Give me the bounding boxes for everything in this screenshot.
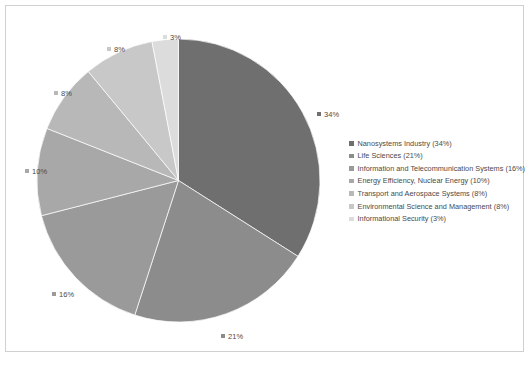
legend-item[interactable]: Information and Telecommunication System…: [349, 162, 524, 175]
data-label-marker-icon: [54, 91, 58, 95]
data-label-marker-icon: [107, 47, 111, 51]
data-label-marker-icon: [221, 334, 225, 338]
legend-item-label: Energy Efficiency, Nuclear Energy (10%): [358, 177, 490, 184]
pie-data-label: 3%: [163, 32, 181, 42]
legend-item-label: Nanosystems Industry (34%): [358, 140, 452, 147]
legend-swatch-icon: [349, 141, 354, 146]
legend-item-label: Transport and Aerospace Systems (8%): [358, 190, 488, 197]
legend-swatch-icon: [349, 217, 354, 222]
legend-item[interactable]: Informational Security (3%): [349, 213, 524, 226]
data-label-text: 8%: [61, 89, 72, 98]
legend-item[interactable]: Life Sciences (21%): [349, 150, 524, 163]
data-label-text: 10%: [32, 167, 47, 176]
legend-item-label: Informational Security (3%): [358, 215, 447, 222]
legend-item[interactable]: Nanosystems Industry (34%): [349, 137, 524, 150]
pie-chart: [36, 38, 321, 323]
legend-item[interactable]: Environmental Science and Management (8%…: [349, 200, 524, 213]
data-label-marker-icon: [163, 35, 167, 39]
data-label-marker-icon: [317, 112, 321, 116]
pie-data-label: 21%: [221, 331, 243, 341]
legend-item-label: Information and Telecommunication System…: [358, 165, 526, 172]
pie-data-label: 8%: [107, 44, 125, 54]
pie-data-label: 34%: [317, 109, 339, 119]
chart-legend: Nanosystems Industry (34%)Life Sciences …: [349, 137, 524, 225]
chart-frame: 34%21%16%10%8%8%3% Nanosystems Industry …: [5, 5, 524, 352]
legend-swatch-icon: [349, 166, 354, 171]
pie-data-label: 10%: [25, 166, 47, 176]
legend-swatch-icon: [349, 191, 354, 196]
pie-data-label: 8%: [54, 88, 72, 98]
legend-item[interactable]: Transport and Aerospace Systems (8%): [349, 187, 524, 200]
data-label-text: 8%: [114, 45, 125, 54]
data-label-text: 21%: [228, 332, 243, 341]
data-label-text: 34%: [324, 110, 339, 119]
legend-swatch-icon: [349, 154, 354, 159]
legend-item[interactable]: Energy Efficiency, Nuclear Energy (10%): [349, 175, 524, 188]
legend-item-label: Life Sciences (21%): [358, 152, 423, 159]
data-label-marker-icon: [25, 169, 29, 173]
data-label-text: 16%: [59, 290, 74, 299]
legend-item-label: Environmental Science and Management (8%…: [358, 203, 510, 210]
legend-swatch-icon: [349, 179, 354, 184]
data-label-marker-icon: [52, 292, 56, 296]
pie-data-label: 16%: [52, 289, 74, 299]
data-label-text: 3%: [170, 33, 181, 42]
legend-swatch-icon: [349, 204, 354, 209]
plot-area: 34%21%16%10%8%8%3% Nanosystems Industry …: [6, 6, 525, 353]
